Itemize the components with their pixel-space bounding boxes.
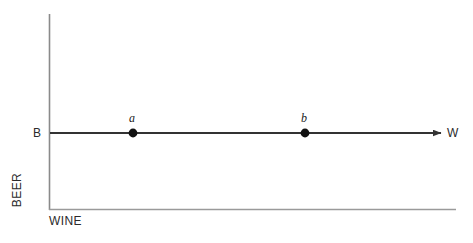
- point-b-label: b: [301, 111, 307, 126]
- chart-figure: B W a b BEER WINE: [0, 0, 473, 243]
- y-axis-title: BEER: [10, 160, 24, 220]
- data-point-b: [301, 129, 310, 138]
- x-axis-title: WINE: [49, 214, 82, 228]
- data-point-a: [129, 129, 138, 138]
- wine-direction-label: W: [447, 126, 458, 140]
- plot-area: [0, 0, 473, 243]
- beer-intercept-label: B: [33, 126, 41, 140]
- point-a-label: a: [129, 111, 135, 126]
